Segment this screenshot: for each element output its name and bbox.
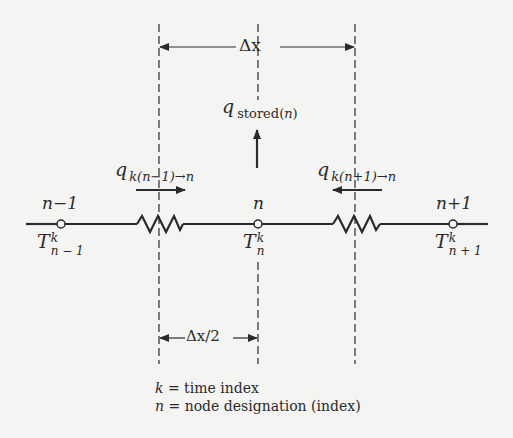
- flow-right-label: qk(n+1)→n: [317, 160, 396, 179]
- diagram-canvas: Δx Δx/2 qstored(n) qk(n−1)→n qk(n+1)→n n…: [0, 0, 513, 438]
- stored-subscript-text: stored: [237, 106, 279, 121]
- diagram-graphics: [0, 0, 513, 438]
- flow-right-subscript-rest: (n+1)→n: [339, 169, 396, 184]
- temp-sup: k: [257, 232, 265, 245]
- node-index-label-n: n: [253, 195, 264, 212]
- temp-sup: k: [449, 232, 482, 245]
- resistor-right: [333, 216, 380, 232]
- temp-label-n: T kn: [243, 232, 264, 257]
- legend-symbol-n: n: [155, 398, 164, 414]
- node-n-plus-1: [449, 220, 457, 228]
- dx-label: Δx: [239, 37, 261, 54]
- dx-label-text: Δx: [239, 35, 261, 55]
- resistor-left: [137, 216, 183, 232]
- temp-supsub: kn: [257, 232, 265, 257]
- stored-heat-subscript: stored(n): [237, 106, 297, 121]
- stored-heat-symbol: q: [222, 95, 234, 117]
- node-n-minus-1: [57, 220, 65, 228]
- temp-symbol: T: [37, 232, 50, 251]
- stored-subscript-index: n: [284, 106, 292, 121]
- flow-left-subscript-rest: (n−1)→n: [137, 169, 194, 184]
- half-dx-label: Δx/2: [186, 329, 220, 344]
- temp-supsub: kn − 1: [51, 232, 84, 257]
- temp-supsub: kn + 1: [449, 232, 482, 257]
- flow-right-symbol: q: [317, 158, 329, 180]
- temp-label-n-plus-1: T kn + 1: [435, 232, 482, 257]
- temp-sub: n + 1: [449, 245, 482, 258]
- node-n: [254, 220, 262, 228]
- flow-right-subscript: k(n+1)→n: [331, 169, 396, 184]
- temp-sub: n − 1: [51, 245, 84, 258]
- flow-left-subscript: k(n−1)→n: [129, 169, 194, 184]
- legend-text-k: = time index: [168, 380, 259, 396]
- temp-symbol: T: [243, 232, 256, 251]
- flow-left-subscript-k: k: [129, 169, 137, 184]
- node-index-label-n-minus-1: n−1: [42, 195, 78, 212]
- flow-right-subscript-k: k: [331, 169, 339, 184]
- half-dx-label-text: Δx/2: [186, 327, 220, 345]
- node-index-label-n-plus-1: n+1: [436, 195, 472, 212]
- temp-sup: k: [51, 232, 84, 245]
- flow-left-label: qk(n−1)→n: [115, 160, 194, 179]
- temp-label-n-minus-1: T kn − 1: [37, 232, 84, 257]
- legend-symbol-k: k: [155, 380, 163, 396]
- legend-line-time-index: k = time index: [155, 381, 259, 395]
- temp-sub: n: [257, 245, 265, 258]
- temp-symbol: T: [435, 232, 448, 251]
- flow-left-symbol: q: [115, 158, 127, 180]
- legend-text-n: = node designation (index): [168, 398, 360, 414]
- stored-heat-label: qstored(n): [222, 97, 298, 116]
- legend-line-node-index: n = node designation (index): [155, 399, 361, 413]
